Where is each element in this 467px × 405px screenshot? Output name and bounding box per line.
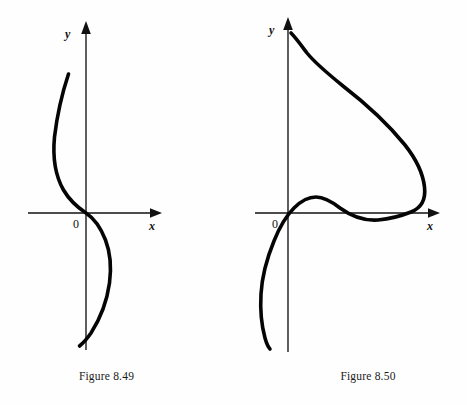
curve-49 bbox=[54, 74, 111, 346]
figure-8-50-graph: y x 0 bbox=[233, 0, 467, 405]
y-axis-label-50: y bbox=[267, 23, 275, 37]
figure-page: y x 0 Figure 8.49 y x 0 Figure 8 bbox=[0, 0, 467, 405]
figure-8-50-container: y x 0 Figure 8.50 bbox=[233, 0, 467, 405]
y-axis-49 bbox=[81, 21, 91, 350]
x-axis-label-50: x bbox=[426, 219, 433, 233]
figure-8-49-container: y x 0 Figure 8.49 bbox=[0, 0, 233, 405]
y-axis-arrow-icon-50 bbox=[283, 17, 293, 30]
figure-8-49-graph: y x 0 bbox=[0, 0, 233, 405]
y-axis-label-49: y bbox=[63, 27, 71, 41]
figure-caption-50: Figure 8.50 bbox=[251, 370, 467, 382]
x-axis-label-49: x bbox=[148, 219, 155, 233]
x-axis-arrow-icon-49 bbox=[150, 208, 162, 218]
y-axis-arrow-icon-49 bbox=[81, 21, 91, 34]
x-axis-49 bbox=[28, 208, 162, 218]
origin-label-49: 0 bbox=[73, 217, 79, 231]
curve-50 bbox=[261, 33, 425, 349]
figure-caption-49: Figure 8.49 bbox=[0, 370, 223, 382]
origin-label-50: 0 bbox=[272, 217, 278, 231]
x-axis-arrow-icon-50 bbox=[428, 208, 440, 218]
y-axis-50 bbox=[283, 17, 293, 352]
